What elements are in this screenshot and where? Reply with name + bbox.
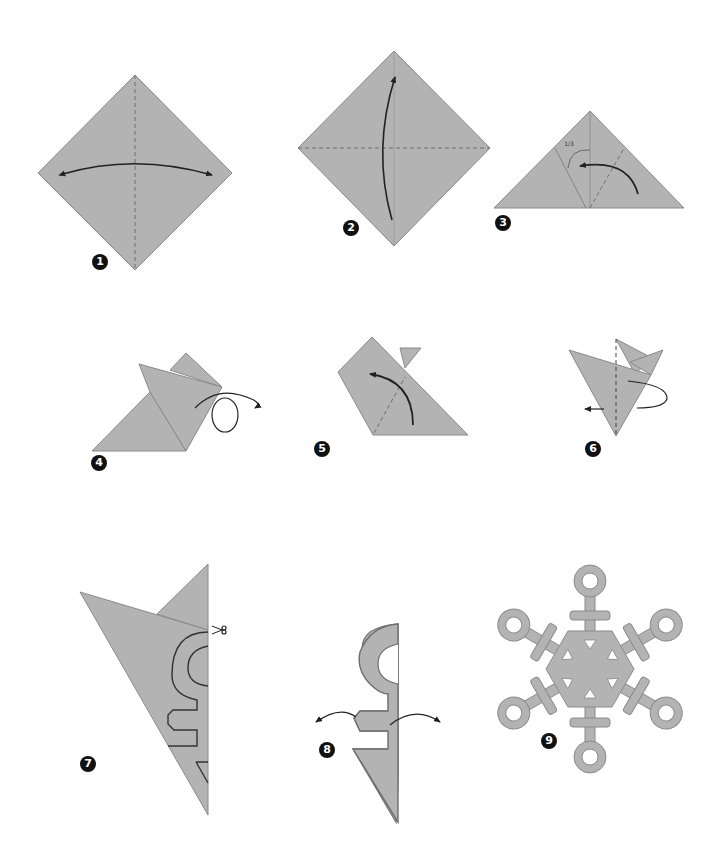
step-badge-4: 4 — [91, 455, 107, 471]
step-badge-8: 8 — [319, 742, 335, 758]
instruction-diagram — [0, 0, 715, 861]
step-badge-5: 5 — [314, 441, 330, 457]
step-2-diagram — [298, 51, 490, 246]
step-badge-3: 3 — [495, 215, 511, 231]
step-3-diagram — [494, 111, 684, 208]
step-badge-7: 7 — [80, 756, 96, 772]
unfold-left-arrow — [316, 712, 356, 722]
step-badge-9: 9 — [541, 733, 557, 749]
step-6-diagram — [569, 339, 667, 436]
step-badge-1: 1 — [92, 254, 108, 270]
paper-front-wedge — [80, 592, 208, 815]
step-4-diagram — [92, 353, 258, 451]
snowflake-arm — [570, 565, 610, 639]
paper-triangle — [494, 111, 684, 208]
scissors-icon — [212, 626, 226, 634]
step-7-diagram — [80, 564, 226, 815]
step-badge-2: 2 — [343, 220, 359, 236]
step-8-diagram — [316, 624, 440, 822]
loop-arrow — [212, 398, 238, 432]
step-9-snowflake — [490, 565, 690, 773]
step-5-diagram — [338, 337, 468, 435]
step-1-diagram — [38, 75, 232, 270]
step-badge-6: 6 — [585, 441, 601, 457]
paper-tip — [400, 348, 421, 368]
angle-fraction-label: 1/3 — [562, 140, 576, 147]
